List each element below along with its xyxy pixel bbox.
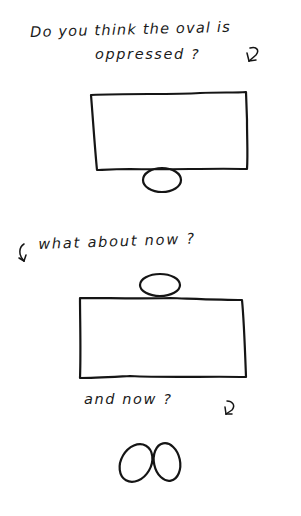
oval-2 — [140, 274, 180, 296]
oval-3-left — [113, 438, 159, 488]
curved-down-left-arrow-icon — [19, 244, 26, 261]
oval-1 — [143, 168, 181, 192]
curved-down-arrow-icon — [225, 401, 234, 414]
rectangle-1 — [91, 92, 247, 170]
comic-drawing: Do you think the oval is oppressed ? wha… — [0, 0, 301, 516]
rectangle-2 — [80, 298, 246, 378]
oval-3-right — [150, 441, 183, 484]
drawing-canvas — [0, 0, 301, 516]
curved-down-arrow-icon — [247, 47, 258, 61]
